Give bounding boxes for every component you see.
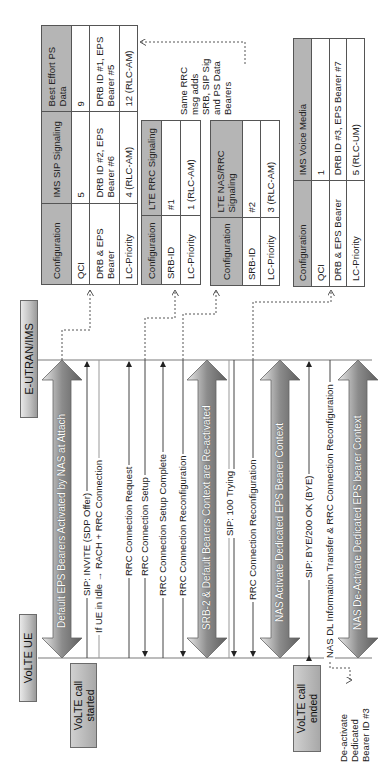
table-cell: DRB ID #1, EPS Bearer #5 xyxy=(89,26,119,112)
table-cell: SRB-ID xyxy=(161,215,181,284)
msg-label-rach: If UE in Idle → RACH + RRC Connection xyxy=(93,458,104,635)
lte-nas-rrc-table: Configuration LTE NAS/RRC Signaling SRB-… xyxy=(210,120,280,286)
table-header-cell: Configuration xyxy=(294,181,312,287)
dotted-connector-1 xyxy=(62,290,90,360)
table-cell: 9 xyxy=(72,26,90,112)
table-row: LC-Priority 1 (RLC-AM) xyxy=(181,121,201,285)
table-cell: #1 xyxy=(161,121,181,216)
msg-label-rrc-setup-complete: RRC Connection Setup Complete xyxy=(157,452,168,598)
table-cell: QCI xyxy=(311,181,329,287)
table-cell: LC-Priority xyxy=(261,218,280,286)
table-cell: QCI xyxy=(72,203,90,284)
ims-voice-media-table: Configuration IMS Voice Media QCI 1 DRB … xyxy=(293,38,365,287)
table-cell: 1 (RLC-AM) xyxy=(181,121,201,216)
table-cell: 12 (RLC-AM) xyxy=(120,26,138,112)
table-cell: SRB-ID xyxy=(242,218,261,286)
msg-label-rrc-reconfig-1: RRC Connection Reconfiguration xyxy=(177,454,188,598)
table-cell: 5 xyxy=(72,112,90,203)
table-header-cell: LTE RRC Signaling xyxy=(142,121,162,216)
table-row: Configuration LTE RRC Signaling xyxy=(142,121,162,285)
table-header-cell: IMS Voice Media xyxy=(294,39,312,181)
msg-label-sip-100: SIP: 100 Trying xyxy=(224,469,235,538)
network-lifeline-header: E-UTRAN/IMS xyxy=(20,300,38,418)
dotted-connector-3 xyxy=(183,290,216,360)
table-cell: DRB & EPS Bearer xyxy=(89,203,119,284)
table-cell: DRB & EPS Bearer xyxy=(329,181,347,287)
msg-label-sip-bye: SIP: BYE/200 OK (BYE) xyxy=(303,474,314,580)
table-row: DRB & EPS Bearer DRB ID #3, EPS Bearer #… xyxy=(329,39,347,287)
table-header-cell: IMS SIP Signaling xyxy=(42,112,72,203)
table-cell: LC-Priority xyxy=(120,203,138,284)
call-ended-box: VoLTE call ended xyxy=(293,665,321,752)
bearer-arrow-label-3: NAS Activate Dedicated EPS Bearer Contex… xyxy=(274,423,286,622)
call-started-label: VoLTE call started xyxy=(72,678,96,733)
table-row: SRB-ID #2 xyxy=(242,121,261,286)
dotted-connector-6 xyxy=(330,658,352,680)
ue-lifeline-header: VoLTE UE xyxy=(19,614,37,702)
table-cell: DRB ID #2, EPS Bearer #6 xyxy=(89,112,119,203)
table-row: LC-Priority 5 (RLC-UM) xyxy=(347,39,365,287)
msg-label-sip-invite: SIP: INVITE (SDP Offer) xyxy=(81,491,92,598)
network-lifeline-label: E-UTRAN/IMS xyxy=(23,323,35,395)
table-cell: 4 (RLC-AM) xyxy=(120,112,138,203)
table-cell: LC-Priority xyxy=(347,181,365,287)
same-rrc-note: Same RRC msg adds SRB, SIP Sig and PS Da… xyxy=(178,57,233,115)
bearer-arrow-label-1: Default EPS Bearers Activated by NAS at … xyxy=(56,414,68,628)
table-row: QCI 5 9 xyxy=(72,26,90,285)
table-row: Configuration IMS SIP Signaling Best Eff… xyxy=(42,26,72,285)
deactivate-bearer-note: De-activate Dedicated Bearer ID #3 xyxy=(338,698,371,762)
msg-label-rrc-setup: RRC Connection Setup xyxy=(139,475,150,578)
table-header-cell: Configuration xyxy=(42,203,72,284)
table-cell: DRB ID #3, EPS Bearer #7 xyxy=(329,39,347,181)
table-header-cell: Configuration xyxy=(142,215,162,284)
table-cell: #2 xyxy=(242,121,261,218)
table-header-cell: Best Effort PS Data xyxy=(42,26,72,112)
table-header-cell: Configuration xyxy=(211,218,243,286)
table-cell: 1 xyxy=(311,39,329,181)
call-started-box: VoLTE call started xyxy=(70,663,97,748)
call-ended-label: VoLTE call ended xyxy=(295,682,319,735)
table-row: Configuration LTE NAS/RRC Signaling xyxy=(211,121,243,286)
msg-label-nas-dl: NAS DL Information Transfer & RRC Connec… xyxy=(324,382,335,660)
table-cell: 3 (RLC-AM) xyxy=(261,121,280,218)
dotted-connector-4 xyxy=(253,290,331,360)
sequence-diagram: E-UTRAN/IMS VoLTE UE VoLTE call started … xyxy=(0,0,390,780)
table-header-cell: LTE NAS/RRC Signaling xyxy=(211,121,243,218)
table-row: QCI 1 xyxy=(311,39,329,287)
msg-label-rrc-reconfig-2: RRC Connection Reconfiguration xyxy=(247,458,258,602)
table-row: Configuration IMS Voice Media xyxy=(294,39,312,287)
bearer-arrow-label-4: NAS De-Activate Dedicated EPS bearer Con… xyxy=(352,415,364,630)
lte-rrc-table: Configuration LTE RRC Signaling SRB-ID #… xyxy=(141,120,201,285)
bearer-arrow-label-2: SRB-2 & Default Bearers Context are Re-a… xyxy=(201,405,213,630)
ue-lifeline-label: VoLTE UE xyxy=(22,633,34,684)
table-row: LC-Priority 4 (RLC-AM) 12 (RLC-AM) xyxy=(120,26,138,285)
dotted-connector-2 xyxy=(145,290,175,360)
table-cell: LC-Priority xyxy=(181,215,201,284)
table-cell: 5 (RLC-UM) xyxy=(347,39,365,181)
msg-label-rrc-request: RRC Connection Request xyxy=(123,465,134,578)
table-row: SRB-ID #1 xyxy=(161,121,181,285)
table-row: LC-Priority 3 (RLC-AM) xyxy=(261,121,280,286)
default-bearers-table: Configuration IMS SIP Signaling Best Eff… xyxy=(41,25,138,285)
table-row: DRB & EPS Bearer DRB ID #2, EPS Bearer #… xyxy=(89,26,119,285)
